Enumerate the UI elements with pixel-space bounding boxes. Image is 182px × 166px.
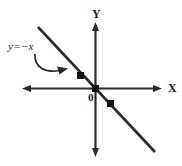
y-axis-label: Y [92, 8, 101, 20]
y-axis-top-arrowhead [92, 22, 99, 31]
x-axis-left-arrowhead [22, 85, 31, 92]
x-axis-right-arrowhead [153, 85, 162, 92]
pointer-arrowhead [57, 67, 68, 75]
pointer-arrow-curve [35, 54, 60, 71]
point-marker-lower-right [107, 100, 114, 107]
graph-figure: Y X 0 y=−x [0, 0, 182, 166]
x-axis-label: X [168, 82, 177, 94]
equation-operator: = [13, 40, 21, 52]
equation-rhs: −x [21, 40, 33, 52]
origin-label: 0 [88, 92, 94, 103]
equation-label: y=−x [8, 41, 33, 52]
y-axis-bottom-arrowhead [92, 148, 99, 157]
equation-pointer-arrow [35, 54, 68, 75]
graph-canvas [0, 0, 182, 166]
point-marker-upper-left [77, 72, 84, 79]
